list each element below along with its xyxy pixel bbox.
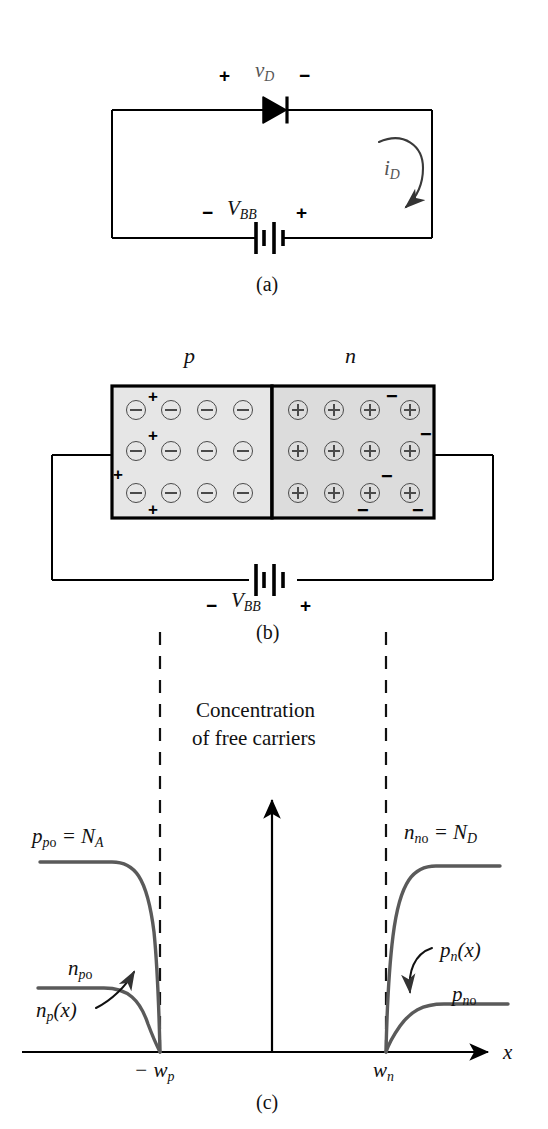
carrier-circled-minus [126,400,146,420]
carrier-circled-minus [161,483,181,503]
figure-root: + vD − iD − VBB + (a) p n + + + + − − − … [0,0,548,1129]
carrier-circled-minus [161,400,181,420]
diode-current-label: iD [384,158,400,182]
edge-sign-minus: − [381,466,393,486]
vbb-a-label: VBB [227,198,257,222]
y-axis-title-line1: Concentration [196,700,315,721]
vbb-b-minus-sign: − [206,596,217,615]
carrier-circled-plus [324,441,344,461]
edge-sign-plus: + [148,427,158,444]
p-region-label: p [184,345,195,367]
panel-a-tag: (a) [256,274,278,294]
panel-b-circuit [52,386,493,596]
panel-c-tag: (c) [256,1092,278,1112]
tick-label-minus-wp: − wp [134,1060,174,1084]
carrier-circled-plus [360,441,380,461]
curve-label-ppo: ppo = NA [32,826,104,850]
annotation-arrow-pn [410,948,432,992]
vbb-a-plus-sign: + [296,203,307,222]
carrier-circled-minus [233,483,253,503]
n-region-label: n [345,345,356,367]
carrier-circled-minus [197,483,217,503]
carrier-circled-plus [324,483,344,503]
carrier-circled-plus [360,400,380,420]
curve-p-n-minority [386,1004,508,1052]
carrier-circled-minus [197,441,217,461]
panel-b-tag: (b) [256,622,279,642]
vbb-b-plus-sign: + [300,596,311,615]
carrier-circled-minus [233,441,253,461]
curve-label-pno: pno [452,984,476,1008]
carrier-circled-plus [324,400,344,420]
carrier-circled-plus [400,441,420,461]
carrier-circled-plus [400,400,420,420]
vbb-b-label: VBB [231,590,261,614]
diode-icon [256,97,292,124]
curve-label-nno: nno = ND [404,822,477,846]
edge-sign-minus: − [386,386,398,406]
vd-minus-sign: − [299,66,310,85]
carrier-circled-plus [288,441,308,461]
carrier-circled-minus [197,400,217,420]
battery-icon [249,222,297,254]
carrier-circled-minus [161,441,181,461]
curve-label-np-x: np(x) [36,1000,77,1024]
edge-sign-minus: − [420,424,432,444]
carrier-circled-minus [126,441,146,461]
edge-sign-plus: + [148,501,158,518]
edge-sign-minus: − [412,500,424,520]
edge-sign-minus: − [357,500,369,520]
y-axis-title-line2: of free carriers [192,728,316,749]
edge-sign-plus: + [113,466,123,483]
carrier-circled-plus [288,483,308,503]
tick-label-wn: wn [373,1060,394,1084]
curve-label-pn-x: pn(x) [440,940,481,964]
curve-label-npo: npo [68,958,92,982]
vd-plus-sign: + [219,66,230,85]
diode-voltage-label: vD [255,60,274,84]
annotation-arrow-np [96,972,134,1008]
carrier-circled-plus [288,400,308,420]
x-axis-label: x [503,1042,512,1063]
vbb-a-minus-sign: − [202,203,213,222]
carrier-circled-minus [233,400,253,420]
edge-sign-plus: + [148,388,158,405]
carrier-circled-minus [126,483,146,503]
